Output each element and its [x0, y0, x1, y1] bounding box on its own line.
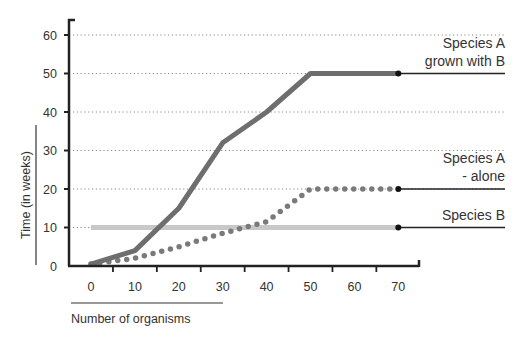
- x-tick-label: 30: [216, 280, 230, 294]
- legend-label: Species B: [442, 207, 505, 223]
- x-tick-label: 20: [172, 280, 186, 294]
- series-group: [91, 74, 398, 265]
- legend-label: Species A: [443, 35, 506, 51]
- y-tick-label: 50: [43, 67, 57, 81]
- series-line-species-a-grown-with-b: [91, 74, 398, 265]
- axes: 0102030405060 010203040506070: [43, 20, 419, 294]
- x-tick-label: 10: [128, 280, 142, 294]
- y-axis-ticks: 0102030405060: [43, 29, 69, 274]
- series-end-dot: [395, 71, 401, 77]
- legend-label: grown with B: [425, 53, 505, 69]
- y-tick-label: 10: [43, 221, 57, 235]
- y-tick-label: 0: [50, 260, 57, 274]
- y-axis-title: Time (in weeks): [19, 151, 33, 239]
- legend-label: Species A: [443, 150, 506, 166]
- y-tick-label: 60: [43, 29, 57, 43]
- series-end-dot: [395, 225, 401, 231]
- legend-label: - alone: [462, 168, 505, 184]
- y-tick-label: 20: [43, 183, 57, 197]
- x-tick-label: 60: [347, 280, 361, 294]
- y-tick-label: 30: [43, 144, 57, 158]
- x-tick-label: 50: [304, 280, 318, 294]
- y-axis-line: [69, 20, 75, 266]
- series-end-dot: [395, 186, 401, 192]
- x-tick-label: 0: [88, 280, 95, 294]
- x-axis-title: Number of organisms: [71, 312, 191, 326]
- y-tick-label: 40: [43, 106, 57, 120]
- x-tick-label: 40: [260, 280, 274, 294]
- x-axis-ticks: 010203040506070: [88, 266, 406, 294]
- x-tick-label: 70: [391, 280, 405, 294]
- line-chart: 0102030405060 010203040506070 Time (in w…: [0, 0, 523, 338]
- legend: Species Agrown with BSpecies A- aloneSpe…: [395, 35, 505, 231]
